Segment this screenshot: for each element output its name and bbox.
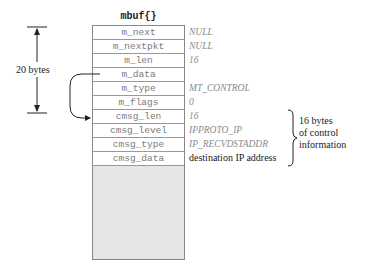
control-info-label: 16 bytes of control information [299,115,346,151]
header-size-label: 20 bytes [16,62,50,77]
control-info-line-1: 16 bytes [299,115,346,127]
control-info-line-2: of control [299,127,346,139]
control-info-line-3: information [299,139,346,151]
control-info-brace [288,110,297,166]
m-data-pointer-arrow [70,74,100,118]
